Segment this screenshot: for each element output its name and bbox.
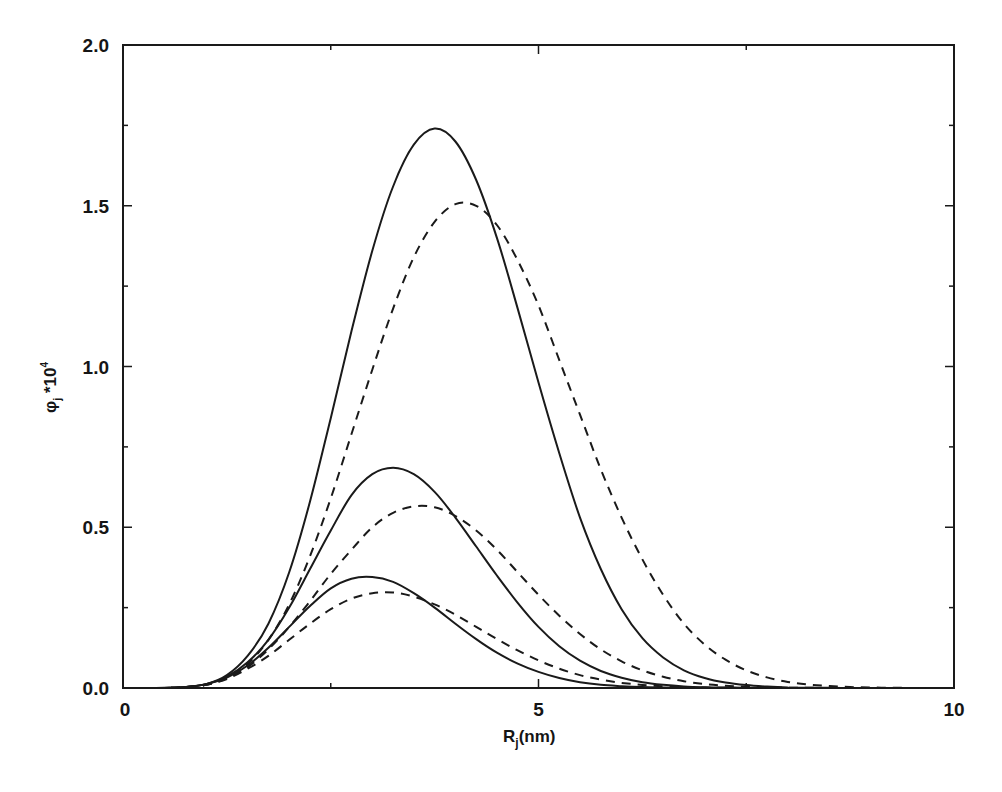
y-tick-label: 1.0 bbox=[83, 357, 109, 378]
chart: 0.00.51.01.52.00510 Rj(nm) φj *104 bbox=[0, 0, 1002, 792]
y-axis-title-sup: 4 bbox=[39, 362, 50, 368]
x-axis-title-rest: (nm) bbox=[519, 727, 556, 746]
x-tick-label: 5 bbox=[533, 699, 544, 720]
curves bbox=[123, 129, 954, 688]
curve-small-solid bbox=[123, 577, 954, 688]
tick-labels: 0.00.51.01.52.00510 bbox=[83, 35, 965, 720]
curve-small-dashed bbox=[123, 592, 954, 688]
y-axis-title-main: φ bbox=[41, 401, 60, 413]
y-tick-label: 2.0 bbox=[83, 35, 109, 56]
curve-medium-dashed bbox=[123, 506, 954, 688]
y-axis-title-rest: *10 bbox=[41, 368, 60, 398]
y-tick-label: 1.5 bbox=[83, 196, 110, 217]
curve-large-solid bbox=[123, 129, 954, 688]
y-tick-label: 0.0 bbox=[83, 678, 109, 699]
y-tick-label: 0.5 bbox=[83, 517, 110, 538]
x-tick-label: 10 bbox=[943, 699, 964, 720]
x-axis-title-main: R bbox=[503, 727, 515, 746]
x-axis-title: Rj(nm) bbox=[503, 727, 555, 750]
axis-ticks bbox=[123, 45, 954, 688]
curve-large-dashed bbox=[123, 203, 954, 688]
y-axis-title: φj *104 bbox=[39, 362, 63, 413]
plot-frame bbox=[123, 45, 954, 688]
x-tick-label: 0 bbox=[120, 699, 131, 720]
